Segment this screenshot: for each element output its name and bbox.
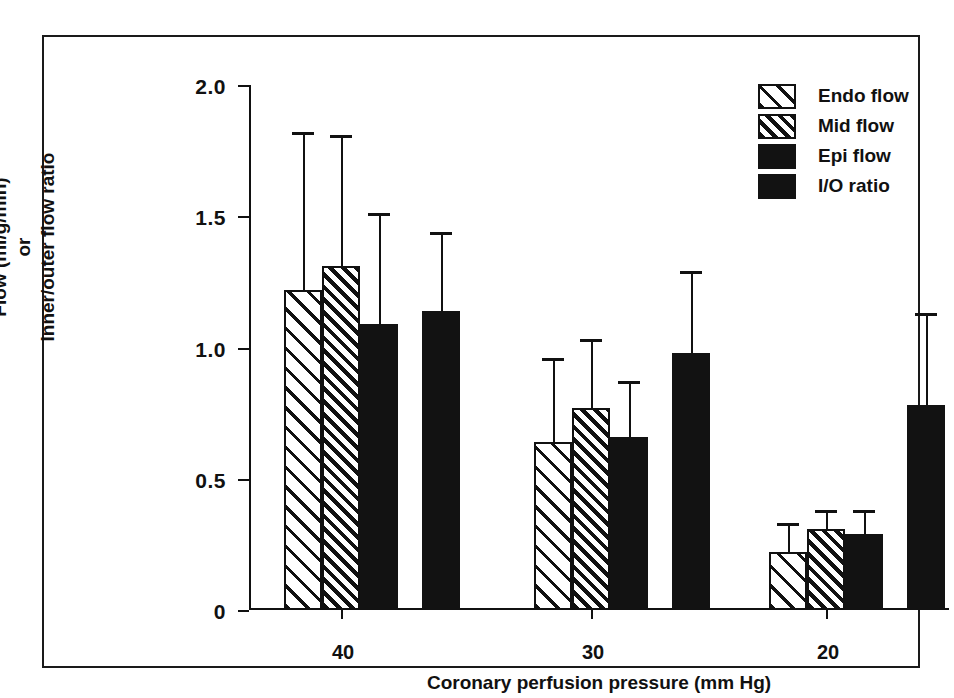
bar-endo-30 (534, 442, 572, 610)
y-axis-tick: 1.0 (238, 348, 249, 350)
x-axis-tick: 20 (826, 610, 828, 619)
error-bar-io-40 (441, 235, 443, 311)
y-axis-title: Flow (ml/g/min) or Inner/outer flow rati… (0, 127, 59, 367)
error-bar-cap (542, 358, 564, 361)
error-bar-cap (580, 339, 602, 342)
y-axis-tick: 2.0 (238, 85, 249, 87)
error-bar-cap (680, 271, 702, 274)
bar-io-30 (672, 353, 710, 610)
y-axis-title-line-2: or (12, 127, 36, 367)
error-bar-cap (368, 213, 390, 216)
y-axis-title-line-3: Inner/outer flow ratio (36, 127, 60, 367)
y-axis-tick: 1.5 (238, 216, 249, 218)
error-bar-cap (815, 510, 837, 513)
y-axis-tick-label: 1.0 (195, 338, 226, 362)
error-bar-cap (853, 510, 875, 513)
error-bar-cap (618, 381, 640, 384)
y-axis-tick-label: 1.5 (195, 206, 226, 230)
x-axis-tick-label: 30 (582, 641, 604, 664)
bar-epi-40 (360, 324, 398, 610)
error-bar-cap (430, 232, 452, 235)
y-axis-tick-label: 0.5 (195, 469, 226, 493)
error-bar-endo-20 (788, 526, 790, 552)
error-bar-cap (915, 313, 937, 316)
y-axis-tick-label: 0 (214, 600, 226, 624)
y-axis-line (249, 85, 251, 610)
y-axis-tick: 0 (238, 610, 249, 612)
x-axis-tick: 40 (341, 610, 343, 619)
bar-epi-20 (845, 534, 883, 610)
error-bar-epi-30 (629, 384, 631, 437)
plot-area: 00.51.01.52.0 403020 (249, 85, 949, 610)
bar-epi-30 (610, 437, 648, 610)
bar-endo-40 (284, 290, 322, 610)
error-bar-cap (292, 132, 314, 135)
x-axis-tick: 30 (591, 610, 593, 619)
x-axis-tick-label: 40 (332, 641, 354, 664)
figure-frame: Flow (ml/g/min) or Inner/outer flow rati… (42, 35, 920, 668)
error-bar-endo-30 (553, 361, 555, 442)
error-bar-epi-40 (379, 216, 381, 324)
y-axis-tick: 0.5 (238, 479, 249, 481)
y-axis-title-line-1: Flow (ml/g/min) (0, 127, 12, 367)
bar-mid-40 (322, 266, 360, 610)
error-bar-io-30 (691, 274, 693, 353)
error-bar-io-20 (926, 316, 928, 405)
bar-io-40 (422, 311, 460, 610)
bar-mid-30 (572, 408, 610, 610)
x-axis-title: Coronary perfusion pressure (mm Hg) (249, 672, 949, 694)
error-bar-cap (777, 523, 799, 526)
error-bar-endo-40 (303, 135, 305, 290)
error-bar-cap (330, 135, 352, 138)
bar-mid-20 (807, 529, 845, 610)
y-axis-tick-label: 2.0 (195, 75, 226, 99)
bar-endo-20 (769, 552, 807, 610)
x-axis-tick-label: 20 (817, 641, 839, 664)
error-bar-mid-30 (591, 342, 593, 408)
error-bar-mid-20 (826, 513, 828, 529)
bar-io-20 (907, 405, 945, 610)
error-bar-mid-40 (341, 138, 343, 267)
error-bar-epi-20 (864, 513, 866, 534)
